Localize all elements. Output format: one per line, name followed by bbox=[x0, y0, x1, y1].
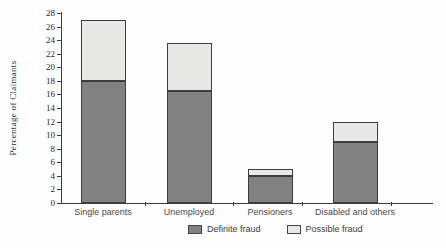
y-tick-label: 6 bbox=[33, 158, 55, 167]
legend-swatch bbox=[188, 225, 202, 234]
bar-segment-possible-fraud bbox=[81, 20, 126, 81]
y-tick-mark bbox=[57, 40, 61, 41]
y-tick-mark bbox=[57, 162, 61, 163]
bar-segment-possible-fraud bbox=[333, 122, 378, 142]
y-tick-mark bbox=[57, 189, 61, 190]
legend-swatch bbox=[287, 225, 301, 234]
legend-item-definite-fraud: Definite fraud bbox=[188, 224, 261, 234]
y-tick-label: 28 bbox=[33, 9, 55, 18]
y-tick-label: 18 bbox=[33, 77, 55, 86]
y-tick-mark bbox=[57, 81, 61, 82]
bar-segment-definite-fraud bbox=[333, 142, 378, 203]
stacked-bar bbox=[167, 43, 212, 203]
x-axis-line bbox=[61, 203, 433, 204]
y-tick-mark bbox=[57, 67, 61, 68]
y-tick-mark bbox=[57, 94, 61, 95]
x-tick-mark bbox=[145, 202, 146, 206]
x-tick-mark bbox=[391, 202, 392, 206]
y-tick-mark bbox=[57, 108, 61, 109]
y-tick-label: 16 bbox=[33, 90, 55, 99]
y-tick-label: 20 bbox=[33, 63, 55, 72]
y-tick-label: 8 bbox=[33, 145, 55, 154]
y-tick-label: 22 bbox=[33, 50, 55, 59]
bar-segment-possible-fraud bbox=[167, 43, 212, 91]
stacked-bar bbox=[248, 169, 293, 203]
y-tick-mark bbox=[57, 27, 61, 28]
plot-area: 0246810121416182022242628 Single parents… bbox=[0, 0, 446, 248]
category-label: Disabled and others bbox=[295, 207, 415, 217]
y-tick-label: 10 bbox=[33, 131, 55, 140]
bar-segment-definite-fraud bbox=[81, 81, 126, 203]
y-tick-mark bbox=[57, 176, 61, 177]
stacked-bar bbox=[81, 20, 126, 203]
y-tick-label: 12 bbox=[33, 118, 55, 127]
y-tick-label: 14 bbox=[33, 104, 55, 113]
bar-segment-definite-fraud bbox=[248, 176, 293, 203]
legend: Definite fraudPossible fraud bbox=[188, 224, 363, 234]
y-axis-line bbox=[61, 12, 62, 203]
y-tick-mark bbox=[57, 149, 61, 150]
x-tick-mark bbox=[233, 202, 234, 206]
y-tick-mark bbox=[57, 135, 61, 136]
stacked-bar bbox=[333, 122, 378, 203]
bar-segment-definite-fraud bbox=[167, 91, 212, 203]
y-tick-label: 26 bbox=[33, 23, 55, 32]
y-tick-label: 4 bbox=[33, 172, 55, 181]
legend-label: Possible fraud bbox=[306, 224, 363, 234]
legend-item-possible-fraud: Possible fraud bbox=[287, 224, 363, 234]
y-tick-mark bbox=[57, 54, 61, 55]
x-tick-mark bbox=[302, 202, 303, 206]
fraud-bar-chart: Percentage of Claimants 0246810121416182… bbox=[0, 0, 446, 248]
y-tick-mark bbox=[57, 122, 61, 123]
y-tick-mark bbox=[57, 13, 61, 14]
y-tick-label: 2 bbox=[33, 185, 55, 194]
legend-label: Definite fraud bbox=[207, 224, 261, 234]
bar-segment-possible-fraud bbox=[248, 169, 293, 176]
y-tick-label: 24 bbox=[33, 36, 55, 45]
